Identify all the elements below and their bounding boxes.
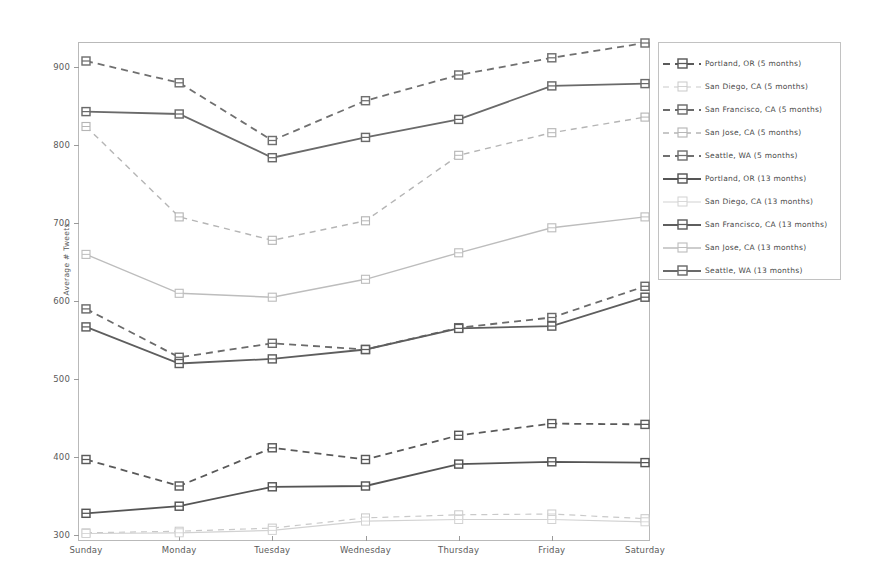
x-tick-label: Monday xyxy=(134,545,224,555)
legend-label: San Jose, CA (5 months) xyxy=(705,128,801,137)
x-tick-mark xyxy=(366,536,367,541)
x-tick-label: Sunday xyxy=(41,545,131,555)
legend: Portland, OR (5 months)San Diego, CA (5 … xyxy=(658,42,841,280)
x-tick-label: Saturday xyxy=(600,545,690,555)
legend-swatch xyxy=(659,261,705,281)
y-tick-label: 600 xyxy=(36,296,70,306)
legend-item-7[interactable]: San Francisco, CA (13 months) xyxy=(659,213,842,236)
x-tick-mark xyxy=(179,536,180,541)
y-tick-label: 400 xyxy=(36,452,70,462)
legend-swatch xyxy=(659,100,705,120)
legend-label: San Francisco, CA (5 months) xyxy=(705,105,822,114)
legend-label: San Diego, CA (13 months) xyxy=(705,197,813,206)
plot-area xyxy=(78,42,650,541)
legend-item-9[interactable]: Seattle, WA (13 months) xyxy=(659,259,842,282)
legend-swatch xyxy=(659,192,705,212)
x-tick-label: Wednesday xyxy=(321,545,411,555)
x-tick-label: Friday xyxy=(507,545,597,555)
legend-label: Seattle, WA (13 months) xyxy=(705,266,803,275)
x-tick-mark xyxy=(459,536,460,541)
y-tick-label: 900 xyxy=(36,62,70,72)
line-chart: 300400500600700800900 SundayMondayTuesda… xyxy=(0,0,879,588)
y-tick-label: 800 xyxy=(36,140,70,150)
legend-swatch xyxy=(659,123,705,143)
legend-label: Seattle, WA (5 months) xyxy=(705,151,798,160)
legend-item-0[interactable]: Portland, OR (5 months) xyxy=(659,52,842,75)
legend-label: San Jose, CA (13 months) xyxy=(705,243,806,252)
legend-item-1[interactable]: San Diego, CA (5 months) xyxy=(659,75,842,98)
x-tick-label: Thursday xyxy=(414,545,504,555)
y-tick-mark xyxy=(74,67,79,68)
y-tick-mark xyxy=(74,379,79,380)
legend-swatch xyxy=(659,238,705,258)
legend-item-5[interactable]: Portland, OR (13 months) xyxy=(659,167,842,190)
y-tick-label: 300 xyxy=(36,530,70,540)
y-tick-mark xyxy=(74,457,79,458)
legend-label: San Francisco, CA (13 months) xyxy=(705,220,827,229)
y-tick-mark xyxy=(74,535,79,536)
legend-item-2[interactable]: San Francisco, CA (5 months) xyxy=(659,98,842,121)
y-axis-label: Average # Tweets xyxy=(62,223,71,295)
y-tick-mark xyxy=(74,223,79,224)
legend-swatch xyxy=(659,215,705,235)
legend-swatch xyxy=(659,77,705,97)
y-tick-mark xyxy=(74,145,79,146)
y-tick-mark xyxy=(74,301,79,302)
legend-item-6[interactable]: San Diego, CA (13 months) xyxy=(659,190,842,213)
x-tick-label: Tuesday xyxy=(227,545,317,555)
y-tick-label: 500 xyxy=(36,374,70,384)
legend-swatch xyxy=(659,169,705,189)
legend-label: San Diego, CA (5 months) xyxy=(705,82,808,91)
legend-item-4[interactable]: Seattle, WA (5 months) xyxy=(659,144,842,167)
legend-label: Portland, OR (5 months) xyxy=(705,59,801,68)
legend-swatch xyxy=(659,54,705,74)
x-tick-mark xyxy=(552,536,553,541)
legend-label: Portland, OR (13 months) xyxy=(705,174,806,183)
legend-swatch xyxy=(659,146,705,166)
legend-item-3[interactable]: San Jose, CA (5 months) xyxy=(659,121,842,144)
legend-item-8[interactable]: San Jose, CA (13 months) xyxy=(659,236,842,259)
x-tick-mark xyxy=(272,536,273,541)
